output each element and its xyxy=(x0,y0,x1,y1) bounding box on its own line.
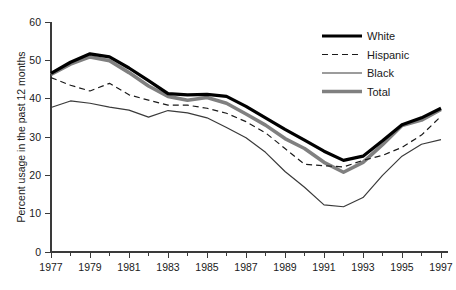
chart-figure: Percent usage in the past 12 months 0102… xyxy=(0,0,456,290)
y-tick-label: 20 xyxy=(29,169,41,181)
y-axis-title: Percent usage in the past 12 months xyxy=(15,51,27,222)
x-tick-label: 1983 xyxy=(156,261,180,273)
legend-label-black: Black xyxy=(367,67,394,79)
y-tick-label: 30 xyxy=(29,131,41,143)
x-tick-label: 1995 xyxy=(390,261,414,273)
y-tick-label: 10 xyxy=(29,207,41,219)
x-tick-label: 1981 xyxy=(117,261,141,273)
legend-label-total: Total xyxy=(367,86,390,98)
y-tick-label: 50 xyxy=(29,54,41,66)
x-axis-ticks: 1977197919811983198519871989199119931995… xyxy=(39,252,453,273)
chart-legend: WhiteHispanicBlackTotal xyxy=(322,30,410,98)
x-tick-label: 1985 xyxy=(195,261,219,273)
x-tick-label: 1997 xyxy=(429,261,453,273)
y-tick-label: 40 xyxy=(29,92,41,104)
x-tick-label: 1989 xyxy=(273,261,297,273)
x-tick-label: 1993 xyxy=(351,261,375,273)
x-tick-label: 1991 xyxy=(312,261,336,273)
y-axis-title-group: Percent usage in the past 12 months xyxy=(15,51,27,222)
legend-label-hispanic: Hispanic xyxy=(367,49,410,61)
y-tick-label: 0 xyxy=(35,246,41,258)
x-tick-label: 1979 xyxy=(78,261,102,273)
x-tick-label: 1987 xyxy=(234,261,258,273)
legend-label-white: White xyxy=(367,30,395,42)
y-axis-ticks: 0102030405060 xyxy=(29,16,51,258)
series-line-black xyxy=(51,101,441,207)
line-chart: Percent usage in the past 12 months 0102… xyxy=(0,0,456,290)
x-tick-label: 1977 xyxy=(39,261,63,273)
y-tick-label: 60 xyxy=(29,16,41,28)
